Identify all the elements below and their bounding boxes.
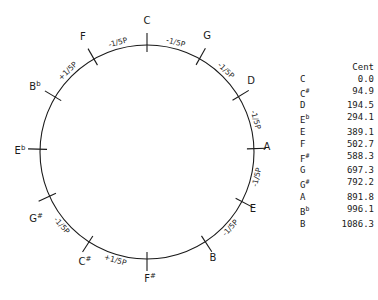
comma-label: -1/5P: [220, 217, 240, 238]
note-label: Bb: [29, 80, 41, 92]
comma-label: +1/5P: [56, 59, 79, 82]
note-name: Bb: [300, 204, 326, 219]
note-name: C: [300, 74, 326, 86]
table-row: D194.5: [300, 100, 374, 112]
comma-labels: -1/5P-1/5P-1/5P-1/5P-1/5P+1/5P-1/5P+1/5P…: [52, 35, 263, 267]
note-label: G#: [29, 212, 43, 224]
comma-label: -1/5P: [216, 61, 236, 81]
cent-value: 697.3: [326, 165, 374, 177]
cent-value: 294.1: [326, 112, 374, 127]
cent-value: 891.8: [326, 192, 374, 204]
cent-value: 0.0: [326, 74, 374, 86]
note-tick: [88, 49, 97, 66]
note-name: D: [300, 100, 326, 112]
note-name: G: [300, 165, 326, 177]
note-name: F#: [300, 151, 326, 166]
comma-label: +1/5P: [103, 252, 128, 267]
table-row: F502.7: [300, 139, 374, 151]
note-label: Eb: [15, 144, 26, 156]
note-label: C: [144, 15, 151, 26]
cent-value: 389.1: [326, 127, 374, 139]
note-label: B: [210, 252, 217, 263]
note-tick: [196, 48, 205, 65]
table-row: F#588.3: [300, 151, 374, 166]
table-row: E389.1: [300, 127, 374, 139]
note-name: G#: [300, 177, 326, 192]
note-name: A: [300, 192, 326, 204]
table-row: G#792.2: [300, 177, 374, 192]
comma-label: -1/5P: [52, 215, 72, 236]
cent-value: 502.7: [326, 139, 374, 151]
table-row: G697.3: [300, 165, 374, 177]
table-row: A891.8: [300, 192, 374, 204]
cent-header: Cent: [326, 62, 374, 74]
note-labels: CGDAEBF#C#G#EbBbF: [15, 15, 271, 284]
table-row: B1086.3: [300, 219, 374, 231]
cent-table: Cent C0.0C#94.9D194.5Eb294.1E389.1F502.7…: [300, 62, 374, 230]
table-row: C#94.9: [300, 86, 374, 101]
circle-of-fifths-diagram: CGDAEBF#C#G#EbBbF -1/5P-1/5P-1/5P-1/5P-1…: [0, 0, 300, 300]
cent-value: 194.5: [326, 100, 374, 112]
note-label: F#: [144, 272, 156, 284]
note-name: Eb: [300, 112, 326, 127]
note-label: F: [80, 31, 86, 42]
note-name: B: [300, 219, 326, 231]
cent-value: 1086.3: [326, 219, 374, 231]
note-label: G: [203, 30, 211, 41]
cent-value: 94.9: [326, 86, 374, 101]
note-name: F: [300, 139, 326, 151]
note-label: C#: [79, 255, 92, 267]
cent-value: 588.3: [326, 151, 374, 166]
table-row: C0.0: [300, 74, 374, 86]
table-row: Eb294.1: [300, 112, 374, 127]
note-label: E: [250, 203, 256, 214]
note-tick: [39, 193, 56, 201]
cent-value: 792.2: [326, 177, 374, 192]
note-label: A: [264, 141, 271, 152]
note-label: D: [247, 75, 255, 86]
note-name: C#: [300, 86, 326, 101]
table-header: Cent: [300, 62, 374, 74]
cent-value: 996.1: [326, 204, 374, 219]
table-row: Bb996.1: [300, 204, 374, 219]
tuning-circle: [40, 45, 254, 259]
note-name: E: [300, 127, 326, 139]
